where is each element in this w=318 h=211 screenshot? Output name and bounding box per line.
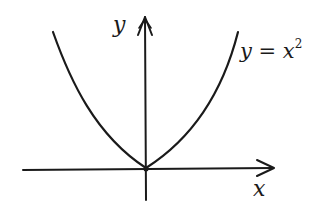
y-axis [138,17,152,200]
equation-base: y = x [240,39,295,63]
y-axis-label: y [113,14,125,36]
origin-point [144,167,149,172]
curve-equation-label: y = x2 [240,38,302,62]
equation-exponent: 2 [295,37,303,51]
parabola-diagram: y x y = x2 [0,0,318,211]
x-axis [23,160,274,176]
x-axis-label: x [253,178,265,200]
diagram-canvas [0,0,318,211]
